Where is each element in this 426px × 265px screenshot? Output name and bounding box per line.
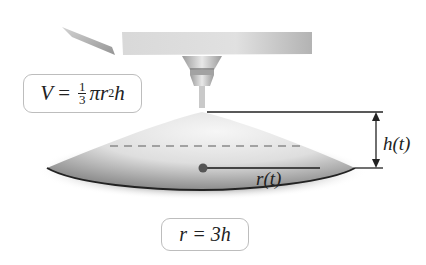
spout [182,56,222,108]
fraction-one-third: 1 3 [78,81,87,106]
formula-h: h [114,81,125,106]
height-label: h(t) [383,133,410,155]
ratio-formula: r = 3h [161,218,249,251]
formula-r: r [100,81,108,106]
volume-formula: V = 1 3 π r2 h [23,74,142,113]
chute [62,27,312,55]
cone-pile [37,112,367,200]
formula-pi: π [89,81,100,106]
ratio-text: r = 3h [179,223,230,246]
formula-equals: = [58,81,70,106]
fraction-denominator: 3 [79,94,86,106]
center-point [199,164,208,173]
radius-label: r(t) [256,168,281,190]
formula-v: V [40,81,53,106]
cone-diagram: V = 1 3 π r2 h r = 3h h(t) r(t) [0,0,426,265]
